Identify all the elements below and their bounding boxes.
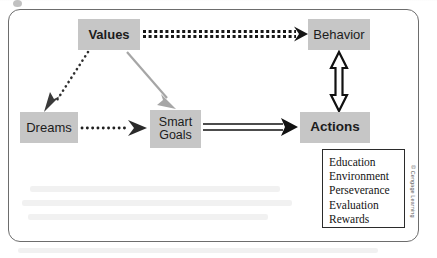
figure-root: Values Behavior Dreams Smart Goals Actio… [0, 0, 437, 258]
node-dreams[interactable]: Dreams [20, 112, 78, 143]
list-item: Environment [329, 169, 404, 183]
node-smart-goals-label-line1: Smart [159, 115, 192, 129]
list-item: Evaluation [329, 198, 404, 212]
factors-list-box: Education Environment Perseverance Evalu… [322, 149, 405, 228]
scan-artifact-dot [13, 0, 22, 7]
node-actions-label: Actions [310, 120, 360, 134]
node-values-label: Values [88, 28, 129, 42]
node-dreams-label: Dreams [26, 121, 72, 135]
node-smart-goals-label-line2: Goals [159, 128, 192, 142]
list-item: Education [329, 155, 404, 169]
node-smart-goals[interactable]: Smart Goals [150, 110, 201, 148]
list-item: Rewards [329, 212, 404, 226]
node-behavior-label: Behavior [313, 28, 364, 42]
node-smart-goals-label: Smart Goals [159, 116, 192, 142]
node-values[interactable]: Values [78, 19, 140, 50]
node-behavior[interactable]: Behavior [308, 19, 370, 50]
copyright-credit: © Cengage Learning [410, 165, 416, 235]
ghost-text-line [18, 248, 378, 253]
list-item: Perseverance [329, 183, 404, 197]
node-actions[interactable]: Actions [300, 112, 370, 143]
